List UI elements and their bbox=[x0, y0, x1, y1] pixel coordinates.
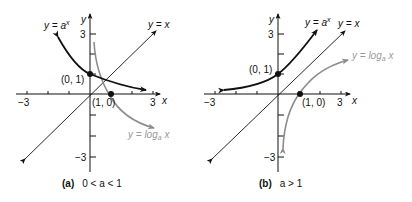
point-0-1 bbox=[87, 71, 93, 77]
panel-a: y x 3 −3 −3 3 (0, 1) (1, 0) y = ax y = x… bbox=[16, 14, 170, 189]
panel-b: y x 3 −3 −3 3 (0, 1) (1, 0) y = ax y = x… bbox=[204, 14, 394, 189]
caption-a: (a)0 < a < 1 bbox=[62, 178, 122, 189]
tick-y-neg: −3 bbox=[75, 152, 87, 163]
log-label: y = loga x bbox=[351, 50, 394, 62]
tick-y-neg: −3 bbox=[264, 152, 276, 163]
label-point-1-0: (1, 0) bbox=[302, 97, 325, 108]
point-0-1 bbox=[275, 71, 281, 77]
y-axis-label: y bbox=[80, 14, 87, 25]
x-axis-label: x bbox=[351, 95, 358, 106]
y-axis-label: y bbox=[268, 14, 275, 25]
tick-y-pos: 3 bbox=[80, 29, 86, 40]
identity-label: y = x bbox=[147, 19, 170, 30]
x-axis-label: x bbox=[161, 95, 168, 106]
tick-x-neg: −3 bbox=[18, 97, 30, 108]
tick-y-pos: 3 bbox=[268, 29, 274, 40]
exp-label: y = ax bbox=[43, 19, 70, 31]
tick-x-pos: 3 bbox=[337, 97, 343, 108]
label-point-1-0: (1, 0) bbox=[92, 97, 115, 108]
exp-label: y = ax bbox=[304, 16, 331, 28]
label-point-0-1: (0, 1) bbox=[249, 64, 272, 75]
label-point-0-1: (0, 1) bbox=[61, 74, 84, 85]
figure: y x 3 −3 −3 3 (0, 1) (1, 0) y = ax y = x… bbox=[0, 0, 412, 202]
tick-x-pos: 3 bbox=[150, 97, 156, 108]
log-label: y = loga x bbox=[127, 129, 170, 141]
tick-x-neg: −3 bbox=[204, 97, 216, 108]
caption-b: (b)a > 1 bbox=[259, 178, 303, 189]
identity-label: y = x bbox=[337, 18, 360, 29]
